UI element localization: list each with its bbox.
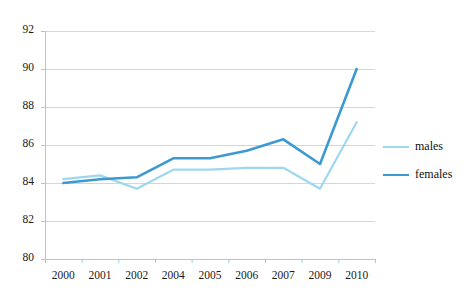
y-tick-label: 84 [0, 175, 34, 187]
legend-line-swatch-females [383, 174, 409, 176]
legend-label: males [415, 139, 443, 154]
y-tick-label: 88 [0, 99, 34, 111]
x-tick-label: 2006 [227, 269, 267, 281]
x-tick-label: 2004 [153, 269, 193, 281]
y-tick-label: 92 [0, 23, 34, 35]
x-tick-label: 2007 [263, 269, 303, 281]
x-tick-label: 2000 [43, 269, 83, 281]
legend-label: females [415, 167, 452, 182]
y-tick-label: 82 [0, 213, 34, 225]
y-tick-label: 86 [0, 137, 34, 149]
y-tick-label: 90 [0, 61, 34, 73]
x-tick-label: 2010 [337, 269, 377, 281]
series-line-females [63, 69, 356, 183]
x-tick-label: 2005 [190, 269, 230, 281]
legend-item-males[interactable]: males [383, 139, 452, 154]
x-tick-label: 2001 [80, 269, 120, 281]
chart-legend: malesfemales [383, 139, 452, 182]
x-tick-label: 2002 [117, 269, 157, 281]
line-chart: 80828486889092 2000200120022004200520062… [0, 0, 471, 305]
legend-line-swatch-males [383, 146, 409, 148]
x-tick-label: 2009 [300, 269, 340, 281]
y-tick-label: 80 [0, 251, 34, 263]
legend-item-females[interactable]: females [383, 167, 452, 182]
